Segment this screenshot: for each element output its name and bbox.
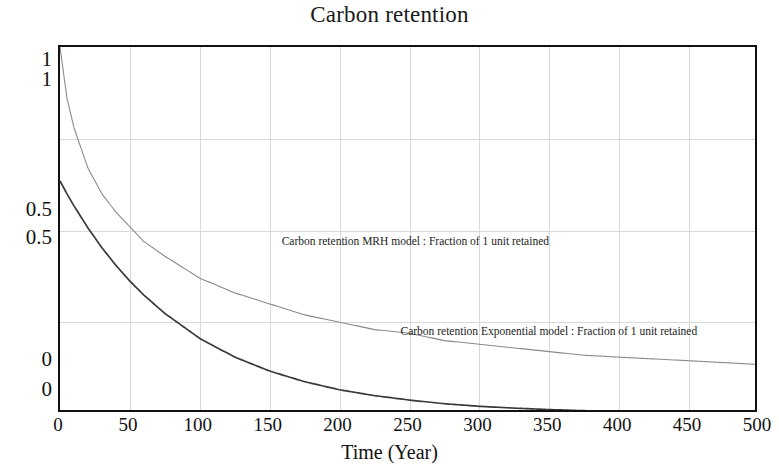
x-tick-label: 500 — [727, 414, 779, 436]
y-tick-scale1-0.5: 0.5 — [4, 197, 52, 222]
x-tick-label: 300 — [447, 414, 507, 436]
x-tick-label: 350 — [517, 414, 577, 436]
x-tick-label: 250 — [378, 414, 438, 436]
x-tick-label: 0 — [28, 414, 88, 436]
chart-title: Carbon retention — [0, 2, 779, 28]
series-line-exponential — [60, 181, 755, 410]
x-tick-label: 50 — [98, 414, 158, 436]
y-tick-scale2-0: 0 — [4, 377, 52, 402]
y-tick-scale2-0.5: 0.5 — [4, 225, 52, 250]
y-tick-scale2-1: 1 — [4, 67, 52, 92]
series-curves — [60, 47, 755, 410]
x-axis-title: Time (Year) — [0, 441, 779, 464]
x-tick-label: 450 — [657, 414, 717, 436]
x-tick-label: 100 — [168, 414, 228, 436]
chart-canvas: Carbon retention 1 1 0.5 0.5 0 0 0501001… — [0, 0, 779, 469]
series-annotation-mrh: Carbon retention MRH model : Fraction of… — [282, 235, 549, 247]
plot-inner — [60, 47, 755, 410]
y-tick-scale1-0: 0 — [4, 347, 52, 372]
x-tick-label: 400 — [587, 414, 647, 436]
x-tick-label: 150 — [238, 414, 298, 436]
plot-area — [58, 45, 757, 412]
series-annotation-exponential: Carbon retention Exponential model : Fra… — [401, 325, 698, 337]
series-line-mrh — [60, 47, 755, 364]
x-tick-label: 200 — [308, 414, 368, 436]
